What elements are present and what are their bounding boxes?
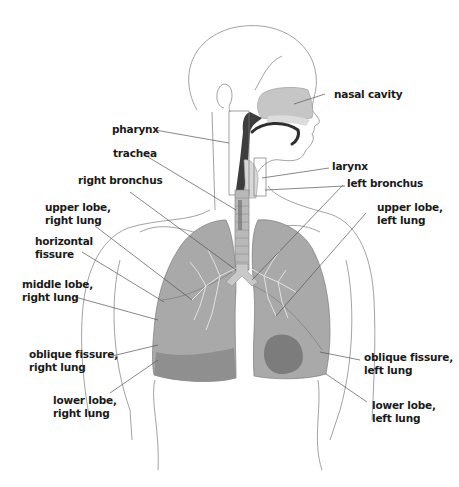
label-trachea: trachea [113, 147, 157, 160]
label-line-2: left lung [377, 214, 443, 227]
right-lung [153, 220, 237, 382]
label-line-2: left lung [364, 364, 453, 377]
label-line-1: oblique fissure, [364, 351, 453, 364]
label-line-1: horizontal [35, 235, 93, 248]
label-oblique-fissure-right-lung: oblique fissure, right lung [29, 348, 118, 374]
label-line-2: right lung [22, 291, 93, 304]
label-right-bronchus: right bronchus [78, 174, 162, 187]
label-lower-lobe-left-lung: lower lobe, left lung [372, 399, 436, 425]
label-line-2: left lung [372, 412, 436, 425]
label-larynx: larynx [332, 160, 368, 173]
label-line-1: upper lobe, [377, 201, 443, 214]
label-line-2: right lung [29, 361, 118, 374]
label-pharynx: pharynx [112, 123, 159, 136]
respiratory-system-diagram: nasal cavity pharynx trachea larynx left… [0, 0, 459, 487]
label-left-bronchus: left bronchus [347, 177, 423, 190]
label-oblique-fissure-left-lung: oblique fissure, left lung [364, 351, 453, 377]
label-line-2: fissure [35, 248, 93, 261]
nasal-cavity [258, 87, 313, 119]
label-horizontal-fissure: horizontal fissure [35, 235, 93, 261]
label-upper-lobe-left-lung: upper lobe, left lung [377, 201, 443, 227]
label-line-2: right lung [45, 214, 111, 227]
label-line-1: oblique fissure, [29, 348, 118, 361]
label-line-1: lower lobe, [372, 399, 436, 412]
label-line-1: upper lobe, [45, 201, 111, 214]
left-lung [250, 220, 330, 379]
label-lower-lobe-right-lung: lower lobe, right lung [53, 394, 117, 420]
label-upper-lobe-right-lung: upper lobe, right lung [45, 201, 111, 227]
mouth-curve [252, 123, 299, 144]
label-line-1: lower lobe, [53, 394, 117, 407]
trachea-shape [235, 190, 249, 270]
label-line-2: right lung [53, 407, 117, 420]
label-middle-lobe-right-lung: middle lobe, right lung [22, 278, 93, 304]
label-nasal-cavity: nasal cavity [334, 88, 402, 101]
label-line-1: middle lobe, [22, 278, 93, 291]
